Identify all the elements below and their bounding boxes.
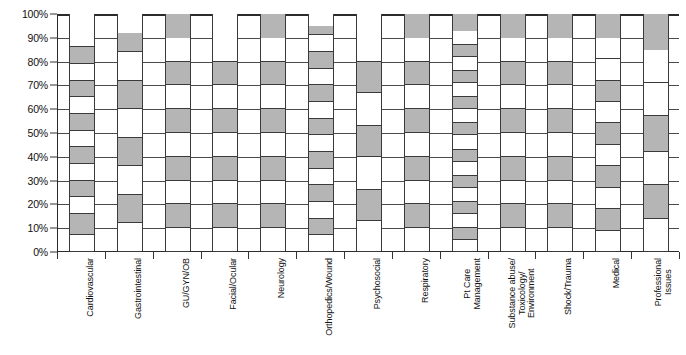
bar-segment <box>596 231 620 252</box>
bar-segment <box>453 135 477 149</box>
bar-segment <box>453 97 477 109</box>
bar-segment <box>213 204 237 228</box>
bar-segment <box>453 45 477 57</box>
bar-segment <box>405 14 429 38</box>
bar[interactable] <box>212 14 238 251</box>
bar-segment <box>309 219 333 236</box>
bar-segment <box>166 133 190 157</box>
y-axis-tick-label: 60% <box>28 104 48 114</box>
bar-segment <box>357 126 381 157</box>
bar-segment <box>213 228 237 252</box>
y-axis-tick-label: 10% <box>28 223 48 233</box>
bar-segment <box>166 85 190 109</box>
x-axis-category-label: Cardiovascular <box>86 258 96 317</box>
y-axis-tick-label: 70% <box>28 80 48 90</box>
bar-segment <box>405 85 429 109</box>
bar-segment <box>309 135 333 152</box>
y-axis-tick-label: 80% <box>28 57 48 67</box>
bar-segment <box>213 38 237 62</box>
bar-segment <box>644 50 668 83</box>
bar-segment <box>166 38 190 62</box>
bar-segment <box>644 185 668 218</box>
y-axis: 100%90%80%70%60%50%40%30%20%10%0% <box>0 0 58 270</box>
bar-segment <box>166 157 190 181</box>
bar-segment <box>118 33 142 52</box>
y-axis-tick-mark <box>50 133 57 134</box>
bar-segment <box>309 152 333 169</box>
x-axis-category-label: Gastrointestinal <box>134 258 144 319</box>
bar-segment <box>261 109 285 133</box>
bar[interactable] <box>404 14 430 251</box>
bar-segment <box>166 14 190 38</box>
bar-segment <box>309 14 333 26</box>
bar-segment <box>166 204 190 228</box>
bar[interactable] <box>452 14 478 251</box>
bar-segment <box>70 164 94 181</box>
bar-segment <box>548 133 572 157</box>
bar[interactable] <box>69 14 95 251</box>
bar[interactable] <box>165 14 191 251</box>
bar-segment <box>596 209 620 230</box>
bar-segment <box>596 38 620 59</box>
y-axis-tick-label: 50% <box>28 128 48 138</box>
x-axis-category-label: GU/GYN/OB <box>182 258 192 308</box>
bar-segment <box>70 97 94 114</box>
bar-segment <box>309 185 333 202</box>
x-axis-category-label: Pt CareManagement <box>463 258 482 310</box>
bar-segment <box>309 69 333 86</box>
bar-segment <box>213 109 237 133</box>
bar-segment <box>501 62 525 86</box>
bar[interactable] <box>117 14 143 251</box>
bar-segment <box>166 181 190 205</box>
bar-segment <box>453 162 477 176</box>
bar-segment <box>453 31 477 45</box>
bar-segment <box>213 181 237 205</box>
x-axis-category-label: Medical <box>612 258 622 288</box>
bar-segment <box>213 85 237 109</box>
bar-segment <box>548 38 572 62</box>
x-axis-category-labels: CardiovascularGastrointestinalGU/GYN/OBF… <box>57 258 679 353</box>
x-axis-tick-mark <box>679 252 680 259</box>
bar-segment <box>309 35 333 52</box>
bar-segment <box>453 14 477 31</box>
x-axis-category-label: Respiratory <box>421 258 431 303</box>
bar-segment <box>261 228 285 252</box>
bar-segment <box>644 116 668 152</box>
bar-segment <box>596 123 620 144</box>
bar-segment <box>70 31 94 48</box>
bar[interactable] <box>547 14 573 251</box>
bar-segment <box>309 52 333 69</box>
bar[interactable] <box>595 14 621 251</box>
bar-segment <box>453 228 477 240</box>
bar-segment <box>501 14 525 38</box>
bar[interactable] <box>643 14 669 251</box>
bar-segment <box>501 157 525 181</box>
bar[interactable] <box>260 14 286 251</box>
bar[interactable] <box>308 14 334 251</box>
bar-segment <box>118 223 142 252</box>
bar-segment <box>596 14 620 38</box>
y-axis-tick-label: 0% <box>33 247 48 257</box>
x-axis-category-label: Neurology <box>277 258 287 298</box>
bar[interactable] <box>356 14 382 251</box>
y-axis-tick-mark <box>50 156 57 157</box>
y-axis-tick-mark <box>50 180 57 181</box>
bars-layer <box>58 14 679 251</box>
bar-segment <box>261 85 285 109</box>
bar-segment <box>70 14 94 31</box>
bar-segment <box>70 181 94 198</box>
bar-segment <box>261 38 285 62</box>
y-axis-tick-mark <box>50 252 57 253</box>
bar-segment <box>70 64 94 81</box>
bar-segment <box>261 133 285 157</box>
bar[interactable] <box>500 14 526 251</box>
bar-segment <box>166 228 190 252</box>
bar-segment <box>453 202 477 214</box>
bar-segment <box>405 62 429 86</box>
bar-segment <box>357 62 381 93</box>
bar-segment <box>357 190 381 221</box>
plot-area <box>57 14 679 252</box>
bar-segment <box>453 176 477 188</box>
bar-segment <box>548 228 572 252</box>
bar-segment <box>548 109 572 133</box>
